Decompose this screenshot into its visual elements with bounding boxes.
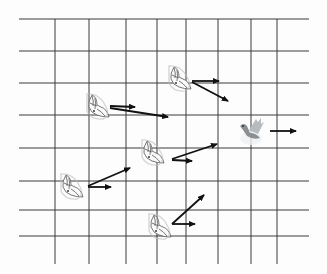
arrow-icon — [88, 168, 130, 186]
dove-flock-diagram — [0, 0, 327, 274]
arrow-icon — [172, 195, 204, 224]
arrow-icon — [192, 82, 228, 101]
arrow-icon — [110, 108, 168, 117]
arrow-icon — [172, 144, 217, 159]
arrow-icon — [172, 160, 192, 161]
arrow-icon — [110, 106, 135, 107]
